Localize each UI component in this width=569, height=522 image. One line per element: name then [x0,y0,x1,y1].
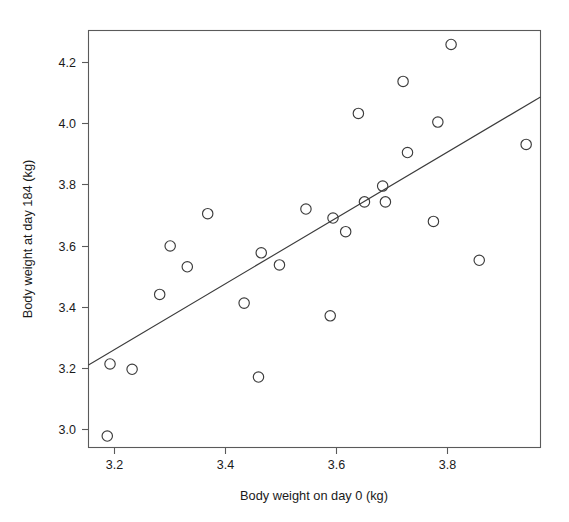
scatter-point [353,108,363,118]
x-axis-title: Body weight on day 0 (kg) [240,488,388,503]
scatter-marker-group [102,39,531,441]
scatter-point [340,227,350,237]
scatter-point [428,216,438,226]
scatter-point [105,359,115,369]
scatter-point [398,76,408,86]
x-tick-label-3-8: 3.8 [439,458,456,472]
scatter-point [127,364,137,374]
regression-line [89,97,541,365]
y-tick-label-3-8: 3.8 [59,178,76,192]
x-tick-label-3-2: 3.2 [106,458,123,472]
scatter-point [154,289,164,299]
scatter-point [402,147,412,157]
plot-frame [89,31,541,448]
scatter-point [102,431,112,441]
y-tick-label-3-4: 3.4 [59,301,76,315]
y-tick-label-4-2: 4.2 [59,56,76,70]
scatter-point [274,260,284,270]
scatter-point [380,197,390,207]
x-axis-tick-labels: 3.2 3.4 3.6 3.8 [106,458,456,472]
scatter-point [446,39,456,49]
y-tick-label-3-6: 3.6 [59,240,76,254]
scatter-point [325,311,335,321]
scatter-plot-figure: 3.0 3.2 3.4 3.6 3.8 4.0 4.2 3.2 3.4 3.6 … [0,0,569,522]
scatter-point [182,262,192,272]
scatter-point [256,248,266,258]
y-tick-label-3-2: 3.2 [59,362,76,376]
plot-canvas: 3.0 3.2 3.4 3.6 3.8 4.0 4.2 3.2 3.4 3.6 … [0,0,569,522]
y-axis-ticks [82,63,89,430]
y-tick-label-4-0: 4.0 [59,117,76,131]
scatter-point [253,372,263,382]
x-tick-label-3-6: 3.6 [328,458,345,472]
scatter-point [474,255,484,265]
y-tick-label-3-0: 3.0 [59,423,76,437]
y-axis-tick-labels: 3.0 3.2 3.4 3.6 3.8 4.0 4.2 [59,56,76,437]
scatter-point [239,298,249,308]
scatter-point [301,204,311,214]
scatter-point [165,241,175,251]
x-tick-label-3-4: 3.4 [217,458,234,472]
y-axis-title: Body weight at day 184 (kg) [20,160,35,319]
scatter-point [377,181,387,191]
scatter-point [203,208,213,218]
scatter-point [521,139,531,149]
scatter-point [433,117,443,127]
x-axis-ticks [115,448,448,455]
